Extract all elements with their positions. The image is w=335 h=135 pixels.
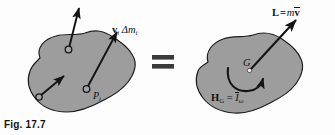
momentum-label-m-subscript: i <box>136 29 138 36</box>
particle-label-pi: Pi <box>93 91 101 102</box>
figure-graphics <box>0 0 335 135</box>
figure-17-7: vi Δmi Pi L = mv G HG = Iω Fig. 17.7 <box>0 0 335 135</box>
equals-sign <box>152 55 174 69</box>
left-body-shape <box>28 31 135 112</box>
particle-label-subscript: i <box>99 95 101 102</box>
linear-momentum-velocity: v <box>294 7 299 19</box>
linear-momentum-label: L = mv <box>272 7 300 19</box>
figure-caption: Fig. 17.7 <box>4 119 46 130</box>
mass-center-label: G <box>243 58 251 69</box>
angular-momentum-omega: ω <box>239 97 244 104</box>
momentum-label-vi-delta-mi: vi Δmi <box>112 25 138 37</box>
linear-momentum-symbol: L <box>272 7 279 18</box>
angular-momentum-symbol: H <box>211 92 219 103</box>
mass-center-letter: G <box>243 57 251 68</box>
mass-center-dot <box>247 68 251 72</box>
momentum-label-m: m <box>128 24 136 35</box>
linear-momentum-mass: m <box>287 7 295 18</box>
angular-momentum-label: HG = Iω <box>211 92 244 105</box>
